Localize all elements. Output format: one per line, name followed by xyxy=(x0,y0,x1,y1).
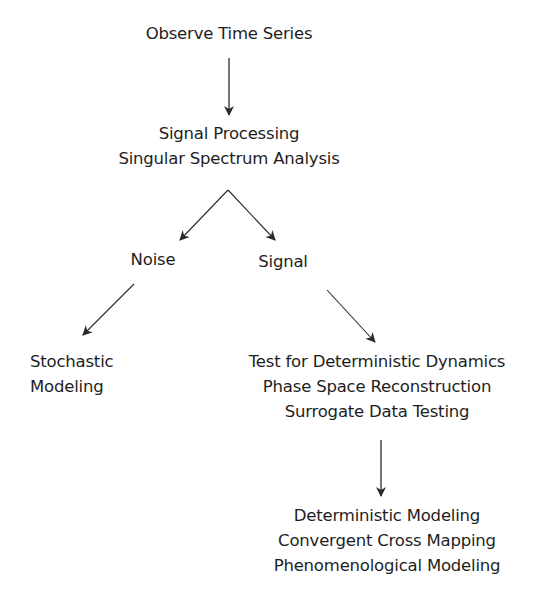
node-line: Surrogate Data Testing xyxy=(249,399,505,424)
node-signal-processing: Signal Processing Singular Spectrum Anal… xyxy=(118,121,339,171)
node-observe-time-series: Observe Time Series xyxy=(146,21,313,46)
node-line: Observe Time Series xyxy=(146,21,313,46)
node-stochastic-modeling: Stochastic Modeling xyxy=(30,349,113,399)
node-line: Singular Spectrum Analysis xyxy=(118,146,339,171)
node-line: Deterministic Modeling xyxy=(274,503,501,528)
node-line: Noise xyxy=(131,247,176,272)
node-noise: Noise xyxy=(131,247,176,272)
node-line: Stochastic xyxy=(30,349,113,374)
node-line: Signal Processing xyxy=(118,121,339,146)
arrow-noise-to-stochastic xyxy=(83,284,134,335)
node-signal: Signal xyxy=(258,249,307,274)
node-line: Signal xyxy=(258,249,307,274)
node-line: Phenomenological Modeling xyxy=(274,553,501,578)
node-line: Modeling xyxy=(30,374,113,399)
arrow-processing-to-noise xyxy=(180,190,228,240)
arrow-signal-to-test xyxy=(327,290,375,342)
node-line: Test for Deterministic Dynamics xyxy=(249,349,505,374)
node-line: Phase Space Reconstruction xyxy=(249,374,505,399)
node-line: Convergent Cross Mapping xyxy=(274,528,501,553)
arrow-processing-to-signal xyxy=(228,190,275,240)
node-test-deterministic-dynamics: Test for Deterministic Dynamics Phase Sp… xyxy=(249,349,505,424)
node-deterministic-modeling: Deterministic Modeling Convergent Cross … xyxy=(274,503,501,578)
